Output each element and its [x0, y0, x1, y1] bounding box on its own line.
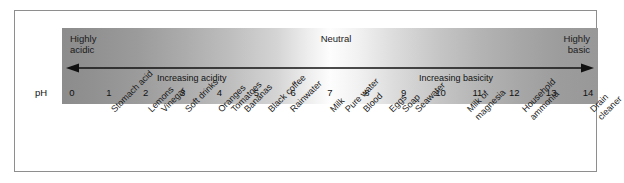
substance-label-layer: Stomach acidLemonsVinegarSoft drinksOran…	[62, 104, 598, 182]
ph-tick-row: 01234567891011121314	[62, 87, 598, 104]
neutral-label: Neutral	[68, 33, 604, 44]
highly-basic-label: Highly basic	[564, 33, 590, 55]
ph-scale-figure: pH Highly acidic Neutral Highly basic In…	[14, 10, 597, 172]
ph-tick-0: 0	[59, 87, 85, 98]
increasing-basicity-label: Increasing basicity	[419, 73, 493, 83]
ph-gradient-bar: Highly acidic Neutral Highly basic Incre…	[62, 28, 598, 104]
ph-axis-label: pH	[35, 87, 47, 98]
